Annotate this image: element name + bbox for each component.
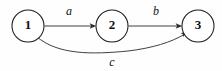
edge-b	[129, 23, 183, 29]
edge-a-label: a	[66, 4, 72, 18]
node-3[interactable]: 3	[182, 10, 214, 42]
node-2-label: 2	[109, 17, 116, 32]
node-3-label: 3	[195, 17, 202, 32]
edge-c-label: c	[109, 55, 115, 69]
graph-diagram: 1 2 3 a b c	[0, 0, 222, 71]
node-2[interactable]: 2	[96, 10, 128, 42]
node-1-label: 1	[25, 17, 32, 32]
edge-b-label: b	[153, 4, 159, 18]
edge-a	[45, 23, 97, 29]
node-1[interactable]: 1	[12, 10, 44, 42]
graph-canvas: 1 2 3 a b c	[0, 0, 222, 71]
